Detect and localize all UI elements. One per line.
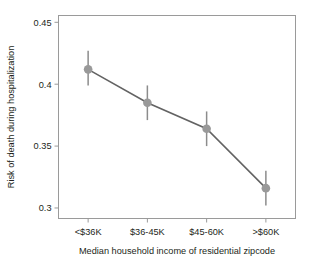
- y-tick-label: 0.3: [39, 203, 52, 213]
- data-point-marker: [202, 124, 211, 133]
- x-tick-label: <$36K: [75, 227, 103, 237]
- plot-background: [0, 0, 311, 261]
- chart-figure: 0.450.40.350.3 <$36K$36-45K$45-60K>$60K …: [0, 0, 311, 261]
- x-tick-label: $45-60K: [189, 227, 225, 237]
- y-axis-title: Risk of death during hospitalization: [6, 46, 16, 189]
- data-point-marker: [262, 184, 271, 193]
- data-point-marker: [143, 98, 152, 107]
- data-point-marker: [84, 65, 93, 74]
- x-tick-label: >$60K: [252, 227, 280, 237]
- x-axis-title: Median household income of residential z…: [79, 246, 275, 256]
- y-tick-label: 0.4: [39, 80, 52, 90]
- y-tick-label: 0.45: [34, 18, 52, 28]
- y-tick-label: 0.35: [34, 141, 52, 151]
- x-tick-label: $36-45K: [130, 227, 166, 237]
- scatter-line-plot: 0.450.40.350.3 <$36K$36-45K$45-60K>$60K …: [0, 0, 311, 261]
